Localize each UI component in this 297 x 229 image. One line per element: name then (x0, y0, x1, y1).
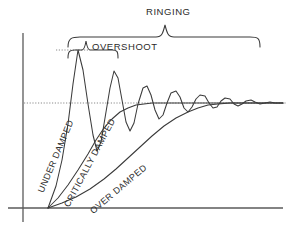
overshoot-label: OVERSHOOT (92, 41, 158, 52)
curve-over-damped (48, 103, 283, 208)
axes-group (8, 33, 283, 222)
ringing-label: RINGING (146, 6, 191, 17)
damping-response-figure: RINGING OVERSHOOT UNDER DAMPED CRITICALL… (0, 0, 297, 229)
curve-critically-damped (48, 103, 283, 208)
figure-canvas (0, 0, 297, 229)
